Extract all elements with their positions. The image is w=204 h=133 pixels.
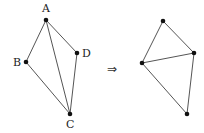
implies-arrow: ⇒: [107, 62, 117, 76]
right-edge-R-Bt: [187, 53, 194, 114]
right-node-L: [140, 61, 145, 66]
left-label-B: B: [13, 56, 21, 69]
left-graph: ABDC: [13, 2, 91, 131]
left-node-B: [24, 60, 29, 65]
right-edge-T-L: [142, 21, 163, 63]
left-node-D: [75, 51, 80, 56]
right-edge-L-Bt: [142, 63, 187, 114]
right-node-Bt: [185, 112, 190, 117]
right-graph: [140, 19, 197, 117]
left-node-C: [68, 112, 73, 117]
right-node-T: [161, 19, 166, 24]
right-edge-L-R: [142, 53, 194, 63]
right-node-R: [192, 51, 197, 56]
left-edge-A-B: [26, 20, 46, 62]
graph-transformation-diagram: ABDC ⇒: [0, 0, 204, 133]
right-edge-T-R: [163, 21, 194, 53]
left-label-D: D: [82, 47, 91, 60]
left-edge-D-C: [70, 53, 77, 114]
left-label-A: A: [41, 2, 51, 15]
left-label-C: C: [66, 118, 74, 131]
left-node-A: [44, 18, 49, 23]
